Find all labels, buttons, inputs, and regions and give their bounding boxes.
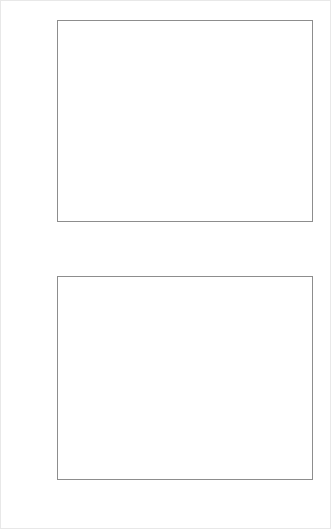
- chart-asset-per-episode: [1, 1, 331, 266]
- bottom-plot-frame: [58, 277, 313, 480]
- bottom-axes: [58, 277, 313, 480]
- chart-average-asset: [1, 265, 331, 529]
- chart-bottom-svg: [1, 265, 331, 529]
- figure-page: [0, 0, 331, 529]
- chart-top-svg: [1, 1, 331, 266]
- top-axes: [58, 21, 313, 222]
- top-plot-frame: [58, 21, 313, 222]
